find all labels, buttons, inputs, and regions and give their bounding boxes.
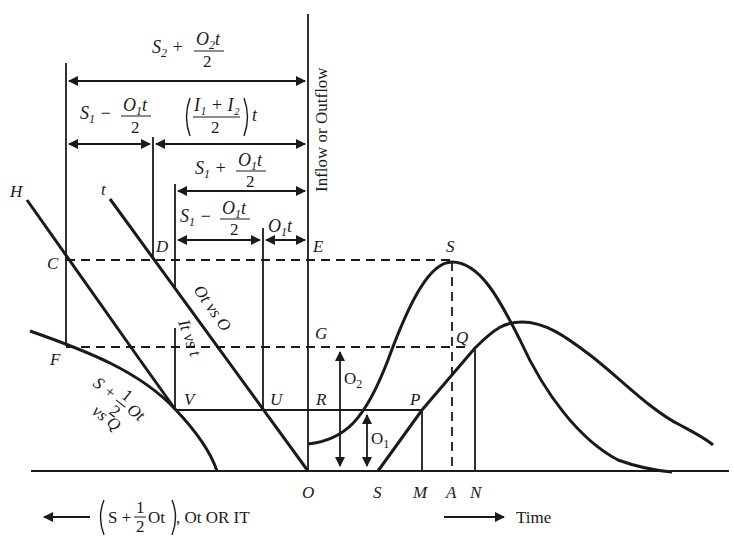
point-r: R [315,390,327,409]
svg-text:S1 −: S1 − [80,103,112,126]
svg-text:S +: S + [108,508,131,527]
svg-text:2: 2 [211,118,220,137]
label-s1-minus-low: S1 − O1t 2 [180,198,250,239]
label-inflow-average: I₁ + I₂ 2 t [187,95,259,137]
point-o: O [302,483,314,502]
svg-text:2: 2 [136,517,145,536]
label-o1t: O1t [268,216,293,239]
svg-text:t: t [252,105,258,125]
svg-text:2: 2 [203,52,212,71]
svg-text:Ot: Ot [148,508,165,527]
point-c: C [47,254,59,273]
svg-text:S +: S + [90,373,121,403]
svg-text:2: 2 [230,220,239,239]
point-s-peak: S [446,237,455,256]
point-s-axis: S [373,483,382,502]
svg-text:S1 −: S1 − [180,206,212,229]
label-s1-plus: S1 + O1t 2 [195,150,266,191]
point-t: t [101,180,107,199]
point-h: H [9,182,24,201]
point-a: A [445,483,457,502]
svg-text:O1t: O1t [238,150,263,173]
outflow-hydrograph [378,322,713,471]
time-label: Time [516,508,551,527]
point-f: F [49,350,61,369]
inflow-hydrograph [308,262,672,472]
point-u: U [270,390,284,409]
svg-text:1: 1 [136,498,145,517]
svg-text:, Ot OR IT: , Ot OR IT [176,508,250,527]
vertical-axis-label: Inflow or Outflow [312,67,331,192]
left-axis-caption: S + 1 2 Ot , Ot OR IT [101,498,251,536]
point-e: E [312,237,324,256]
svg-text:O2t: O2t [196,29,221,52]
svg-text:O1t: O1t [222,198,247,221]
point-v: V [184,390,197,409]
svg-text:O1t: O1t [123,95,148,118]
svg-text:2: 2 [246,172,255,191]
point-d: D [155,237,169,256]
label-s2-plus: S2 + O2t 2 [152,29,224,71]
point-q: Q [456,328,468,347]
routing-diagram: Inflow or Outflow S2 + O2t 2 S1 − O1t 2 … [0,0,734,555]
label-s1-minus-top: S1 − O1t 2 [80,95,151,137]
svg-text:Ot: Ot [123,400,149,426]
svg-text:I₁ + I₂: I₁ + I₂ [193,95,240,115]
point-p: P [409,390,420,409]
svg-text:S1 +: S1 + [195,158,227,181]
point-m: M [412,483,428,502]
svg-text:2: 2 [131,118,140,137]
svg-text:O1t: O1t [268,216,293,239]
point-g: G [315,324,327,343]
svg-text:S2 +: S2 + [152,37,184,60]
point-n: N [469,483,483,502]
o2-label: O2 [344,369,362,391]
o1-label: O1 [371,429,389,451]
